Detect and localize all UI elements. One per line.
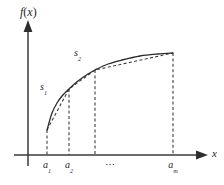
function-curve [47,53,173,130]
drop-lines-group [47,53,173,155]
x-axis-arrowhead [196,151,208,160]
x-tick-label-a2-sub: 2 [70,167,73,174]
y-axis-arrowhead [24,20,33,32]
x-tick-label-ellipsis: ⋯ [105,160,116,170]
x-tick-label-a2: a2 [65,160,73,170]
region-label-s1: s1 [40,82,47,92]
x-axis-label: x [212,148,217,159]
y-axis-label: f(x) [20,6,37,18]
region-label-s2: s2 [74,48,81,58]
x-tick-label-a1-sub: 1 [48,167,51,174]
math-figure: f(x) x s1 s2 a1 a2 ⋯ am [0,0,224,185]
x-tick-label-am: am [168,160,177,170]
region-label-s2-sub: 2 [78,55,81,62]
region-label-s1-sub: 1 [44,89,47,96]
figure-canvas [0,0,224,185]
x-tick-label-ellipsis-base: ⋯ [105,159,116,170]
y-axis-label-paren-close: ) [33,5,37,19]
x-tick-label-am-sub: m [173,167,177,174]
x-tick-label-a1: a1 [43,160,51,170]
